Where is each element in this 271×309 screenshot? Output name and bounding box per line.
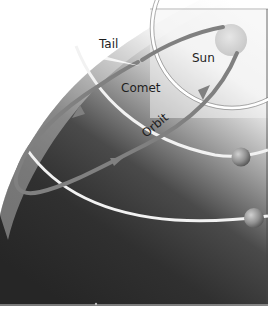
comet-orbit-diagram: Tail Sun Comet Orbit [0,0,271,309]
sun-label: Sun [192,51,215,65]
planet-1 [232,148,251,167]
comet-label: Comet [121,81,161,95]
tail-label: Tail [98,37,118,51]
planet-2 [244,208,264,228]
star-speck [95,303,97,305]
